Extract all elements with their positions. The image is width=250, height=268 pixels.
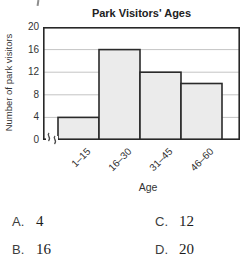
answer-option-b[interactable]: B. 16 — [12, 241, 51, 258]
x-tick-label: 31–45 — [135, 146, 175, 186]
answer-option-d[interactable]: D. 20 — [155, 241, 194, 258]
x-tick-label: 46–60 — [176, 146, 216, 186]
bar — [181, 84, 222, 141]
answer-letter: C. — [155, 214, 179, 229]
bars-svg — [43, 27, 240, 140]
y-tick-label: 4 — [0, 111, 39, 123]
y-tick-label: 20 — [0, 21, 39, 33]
chart: Park Visitors' Ages Number of park visit… — [0, 0, 250, 200]
bar — [58, 117, 99, 140]
question-page: Park Visitors' Ages Number of park visit… — [0, 0, 250, 268]
answer-value: 16 — [36, 241, 51, 258]
y-tick-label: 8 — [0, 89, 39, 101]
answer-value: 12 — [179, 213, 194, 230]
answer-value: 4 — [36, 213, 44, 230]
axis-break-icon — [44, 132, 60, 146]
x-tick-label: 16–30 — [94, 146, 134, 186]
plot-area — [43, 27, 240, 140]
y-tick-label: 12 — [0, 66, 39, 78]
answer-value: 20 — [179, 241, 194, 258]
answer-letter: B. — [12, 242, 36, 257]
x-axis-title: Age — [43, 181, 250, 193]
bar — [99, 50, 140, 140]
y-axis-title: Number of park visitors — [3, 18, 16, 148]
y-tick-label: 0 — [0, 134, 39, 146]
y-axis-arrow-tip — [37, 0, 40, 6]
bar — [140, 72, 181, 140]
y-tick-label: 16 — [0, 44, 39, 56]
answer-letter: D. — [155, 242, 179, 257]
answer-option-a[interactable]: A. 4 — [12, 213, 44, 230]
x-tick-label: 1–15 — [53, 146, 93, 186]
chart-title: Park Visitors' Ages — [43, 7, 240, 19]
answer-letter: A. — [12, 214, 36, 229]
answer-option-c[interactable]: C. 12 — [155, 213, 194, 230]
